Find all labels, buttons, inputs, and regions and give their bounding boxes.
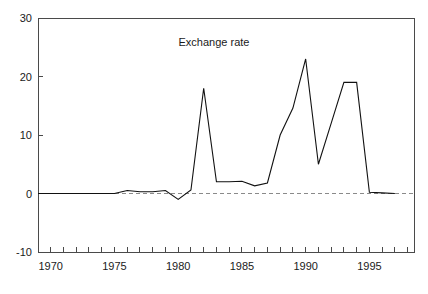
- tick-labels: 3020100-10197019751980198519901995: [16, 12, 382, 272]
- x-tick-label: 1980: [166, 260, 190, 272]
- x-tick-label: 1970: [39, 260, 63, 272]
- y-tick-label: 10: [20, 129, 32, 141]
- y-tick-label: 20: [20, 71, 32, 83]
- y-tick-label: 0: [26, 188, 32, 200]
- axes: [38, 18, 414, 252]
- exchange-rate-line-chart: 3020100-10197019751980198519901995 Excha…: [0, 0, 428, 294]
- x-tick-label: 1990: [293, 260, 317, 272]
- x-tick-label: 1985: [230, 260, 254, 272]
- series-lines: [38, 59, 395, 199]
- y-tick-label: 30: [20, 12, 32, 24]
- x-tick-label: 1975: [102, 260, 126, 272]
- x-tick-label: 1995: [357, 260, 381, 272]
- y-tick-label: -10: [16, 246, 32, 258]
- chart-title: Exchange rate: [179, 36, 250, 48]
- chart-figure: 3020100-10197019751980198519901995 Excha…: [0, 0, 428, 294]
- data-series-line: [38, 59, 395, 199]
- plot-frame: [38, 18, 414, 252]
